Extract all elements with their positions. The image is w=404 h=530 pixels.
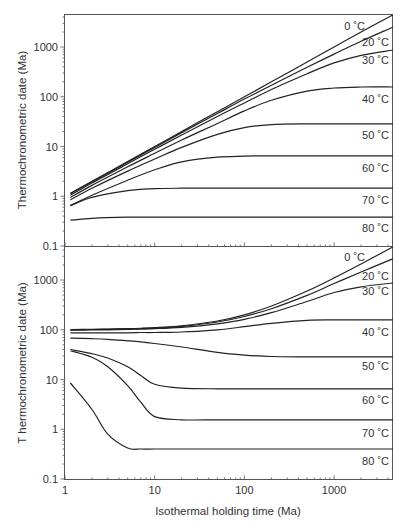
- curve-60c: [70, 156, 392, 206]
- y-tick-label: 100: [40, 324, 58, 336]
- series-label: 50 ˚C: [362, 360, 389, 372]
- bottom-series-labels: 0 ˚C20 ˚C30 ˚C40 ˚C50 ˚C60 ˚C70 ˚C80 ˚C: [344, 251, 389, 467]
- curve-20c: [70, 259, 392, 330]
- curve-70c: [70, 188, 392, 205]
- x-tick-label: 100: [235, 484, 253, 496]
- x-axis-title: Isothermal holding time (Ma): [155, 505, 301, 517]
- y-tick-label: 0.1: [43, 240, 58, 252]
- chart: 0.11101001000 0 ˚C20 ˚C30 ˚C40 ˚C50 ˚C60…: [0, 0, 404, 530]
- series-label: 50 ˚C: [362, 129, 389, 141]
- bottom-curves: [70, 247, 392, 449]
- top-curves: [70, 15, 392, 220]
- series-label: 40 ˚C: [362, 93, 389, 105]
- top-x-axis-ticks: [65, 243, 388, 247]
- series-label: 30 ˚C: [362, 285, 389, 297]
- y-tick-label: 0.1: [43, 473, 58, 485]
- series-label: 40 ˚C: [362, 326, 389, 338]
- series-label: 60 ˚C: [362, 394, 389, 406]
- bottom-y-axis-title: T hermochronometric date (Ma): [16, 282, 28, 444]
- curve-80c: [70, 217, 392, 220]
- curve-60c: [70, 350, 392, 389]
- y-tick-label: 10: [46, 141, 58, 153]
- curve-80c: [70, 383, 392, 449]
- top-panel: 0.11101001000 0 ˚C20 ˚C30 ˚C40 ˚C50 ˚C60…: [16, 15, 393, 253]
- x-tick-label: 10: [149, 484, 161, 496]
- curve-70c: [70, 351, 392, 420]
- curve-30c: [70, 283, 392, 330]
- series-label: 0 ˚C: [344, 20, 365, 32]
- top-y-axis: 0.11101001000: [34, 17, 65, 252]
- bottom-y-axis: 0.11101001000: [34, 250, 65, 485]
- series-label: 60 ˚C: [362, 162, 389, 174]
- x-tick-label: 1: [62, 484, 68, 496]
- bottom-x-axis: 1101001000: [62, 476, 388, 497]
- y-tick-label: 1: [52, 190, 58, 202]
- series-label: 30 ˚C: [362, 54, 389, 66]
- x-tick-label: 1000: [322, 484, 346, 496]
- bottom-panel: 0.11101001000 1101001000 0 ˚C20 ˚C30 ˚C4…: [16, 247, 393, 518]
- curve-30c: [70, 50, 392, 195]
- y-tick-label: 100: [40, 91, 58, 103]
- y-tick-label: 1000: [34, 41, 58, 53]
- series-label: 20 ˚C: [362, 270, 389, 282]
- series-label: 70 ˚C: [362, 427, 389, 439]
- series-label: 80 ˚C: [362, 222, 389, 234]
- series-label: 20 ˚C: [362, 36, 389, 48]
- curve-50c: [70, 338, 392, 357]
- y-tick-label: 1000: [34, 274, 58, 286]
- top-y-axis-title: Thermochronometric date (Ma): [16, 51, 28, 210]
- series-label: 0 ˚C: [344, 251, 365, 263]
- bottom-plot-frame: [65, 247, 393, 480]
- series-label: 70 ˚C: [362, 194, 389, 206]
- series-label: 80 ˚C: [362, 455, 389, 467]
- y-tick-label: 10: [46, 374, 58, 386]
- y-tick-label: 1: [52, 423, 58, 435]
